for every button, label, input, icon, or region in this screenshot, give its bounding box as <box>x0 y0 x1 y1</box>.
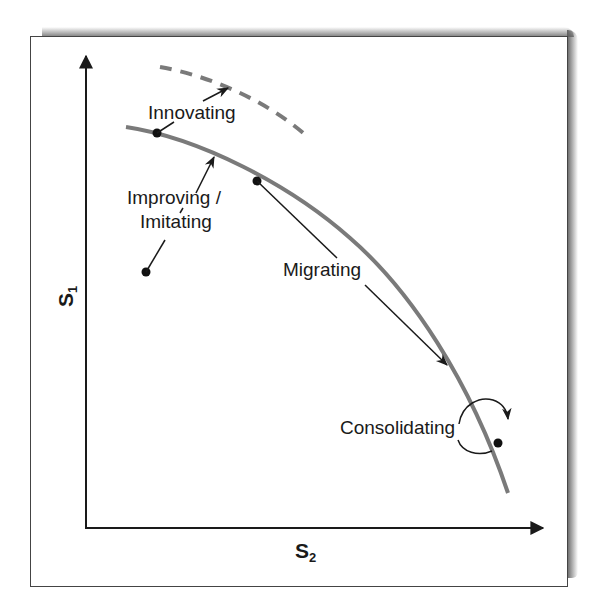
label-consolidating: Consolidating <box>340 418 455 437</box>
current-frontier-curve <box>126 127 508 493</box>
diagram-canvas <box>0 0 597 615</box>
x-axis-label-subscript: 2 <box>309 550 316 565</box>
label-migrating: Migrating <box>283 260 361 279</box>
x-axis-label-text: S <box>295 539 309 562</box>
y-axis-label: S1 <box>55 286 79 307</box>
consolidating-point <box>494 439 503 448</box>
y-axis-label-text: S <box>54 293 77 307</box>
label-innovating: Innovating <box>148 103 236 122</box>
y-axis-label-subscript: 1 <box>65 286 80 293</box>
circular-arrow-icon <box>459 399 508 424</box>
label-improving: Improving / <box>127 188 221 207</box>
label-imitating: Imitating <box>140 212 212 231</box>
x-axis-label: S2 <box>295 540 316 564</box>
